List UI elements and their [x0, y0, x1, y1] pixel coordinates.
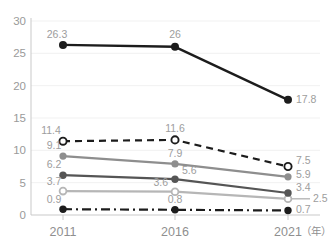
y-tick-label-5: 5	[20, 177, 26, 189]
data-label-s1-2016: 26	[169, 28, 181, 40]
data-label-s5-2011: 3.7	[47, 175, 62, 187]
y-tick-label-15: 15	[13, 112, 26, 124]
series-1-marker-2011	[59, 41, 67, 49]
x-axis-unit-label: （年）	[301, 225, 331, 237]
y-tick-label-30: 30	[13, 15, 26, 27]
x-axis-tick-labels: 2011 2016 2021 （年）	[50, 225, 331, 239]
series-6-marker-2016	[171, 206, 178, 213]
data-label-s3-2016: 7.9	[168, 147, 183, 159]
x-tick-label-2021: 2021	[274, 225, 302, 239]
data-label-s4-2016: 5.6	[182, 164, 197, 176]
y-tick-label-10: 10	[13, 144, 26, 156]
chart-canvas: 30 25 20 15 10 5 0 2011 2016 2021 （年）	[0, 0, 336, 242]
data-label-s5-2016: 3.6	[153, 176, 168, 188]
data-label-s6-2011: 0.9	[47, 193, 62, 205]
series-6-data-labels: 0.9 0.8 0.7	[47, 193, 311, 215]
x-tick-label-2011: 2011	[50, 225, 77, 239]
x-tick-marks	[63, 215, 288, 220]
y-tick-label-25: 25	[13, 47, 26, 59]
series-4-marker-2016	[171, 176, 178, 183]
series-6-marker-2011	[59, 206, 66, 213]
data-label-s6-2016: 0.8	[168, 193, 183, 205]
data-label-s5-2021: 2.5	[313, 192, 328, 204]
series-3-marker-2021	[284, 173, 291, 180]
data-label-s4-2011: 6.2	[47, 158, 62, 170]
series-1-marker-2016	[171, 43, 179, 51]
y-axis-tick-labels: 30 25 20 15 10 5 0	[13, 15, 26, 221]
series-3-marker-2016	[171, 160, 178, 167]
series-1-marker-2021	[284, 96, 292, 104]
data-label-s4-2021: 3.4	[296, 181, 311, 193]
series-6-marker-2021	[284, 207, 291, 214]
series-2-marker-2021	[284, 163, 291, 170]
x-tick-label-2016: 2016	[161, 225, 189, 239]
data-label-s2-2011: 11.4	[41, 124, 61, 136]
data-label-s1-2021: 17.8	[296, 93, 317, 105]
data-label-s1-2011: 26.3	[47, 28, 68, 40]
data-label-s6-2021: 0.7	[296, 203, 311, 215]
series-2-marker-2016	[171, 136, 178, 143]
y-tick-label-0: 0	[20, 209, 26, 221]
series-1-group	[59, 41, 292, 104]
series-4-marker-2021	[284, 189, 291, 196]
line-chart: 30 25 20 15 10 5 0 2011 2016 2021 （年）	[0, 0, 336, 242]
y-tick-label-20: 20	[13, 80, 26, 92]
series-6-group	[59, 206, 291, 215]
data-label-s2-2021: 7.5	[296, 154, 311, 166]
data-label-s3-2021: 5.9	[296, 168, 311, 180]
data-label-s2-2016: 11.6	[165, 122, 185, 134]
series-5-group	[60, 188, 310, 203]
data-label-s3-2011: 9.1	[47, 139, 62, 151]
